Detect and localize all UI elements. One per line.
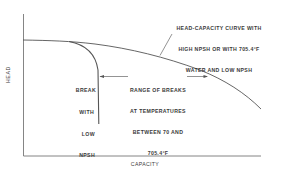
curve-label: HEAD-CAPACITY CURVE WITH HIGH NPSH OR WI… [163,11,275,81]
curve-label-line-2: HIGH NPSH OR WITH 705.4°F [163,46,275,53]
y-axis-label: HEAD [5,66,12,83]
break-label-line-4: NPSH [64,152,98,159]
break-label-line-3: LOW [64,131,98,138]
break-label: BREAK WITH LOW NPSH AT 70°F [64,73,98,173]
range-label: RANGE OF BREAKS AT TEMPERATURES BETWEEN … [126,73,190,164]
break-label-line-1: BREAK [64,87,98,94]
break-label-line-2: WITH [64,109,98,116]
range-label-line-2: AT TEMPERATURES [126,108,190,115]
x-axis-label: CAPACITY [110,161,180,168]
arrowhead-left-icon [100,75,105,78]
range-label-line-1: RANGE OF BREAKS [126,87,190,94]
range-label-line-3: BETWEEN 70 AND [126,129,190,136]
curve-label-line-1: HEAD-CAPACITY CURVE WITH [163,25,275,32]
range-label-line-4: 705.4°F [126,150,190,157]
